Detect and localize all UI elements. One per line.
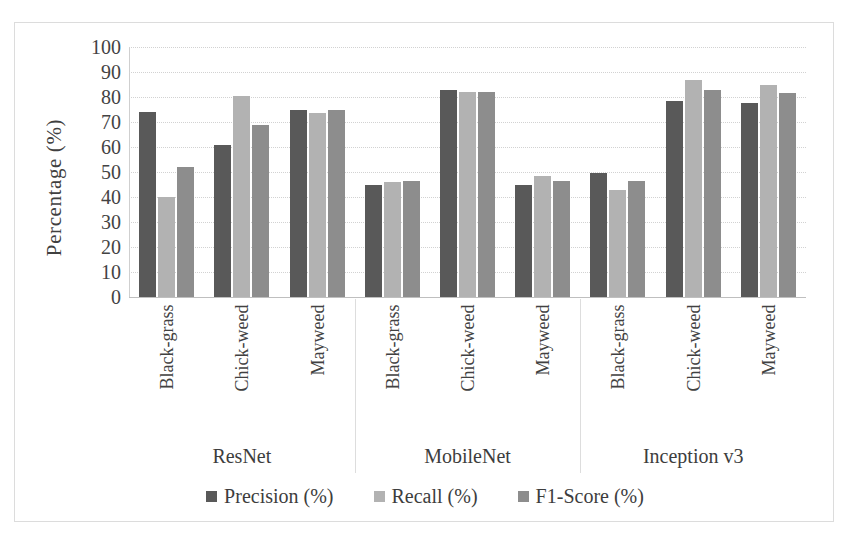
y-axis-title: Percentage (%) [42, 73, 67, 303]
category-axis-label: Mayweed [758, 305, 779, 431]
category-axis-label: Mayweed [533, 305, 554, 431]
bar[interactable] [741, 103, 758, 297]
category-axis-label: Mayweed [307, 305, 328, 431]
bar[interactable] [515, 185, 532, 298]
bar-cluster [515, 47, 570, 297]
bar[interactable] [233, 96, 250, 297]
legend-item[interactable]: F1-Score (%) [518, 485, 644, 508]
bar[interactable] [478, 92, 495, 297]
bar[interactable] [214, 145, 231, 298]
bar[interactable] [609, 190, 626, 298]
bar[interactable] [760, 85, 777, 298]
group-axis-label: MobileNet [355, 441, 581, 475]
bar[interactable] [459, 92, 476, 297]
legend-swatch-icon [206, 491, 217, 502]
category-axis-label: Chick-weed [232, 305, 253, 431]
y-axis-tick-label: 50 [77, 162, 121, 182]
bar[interactable] [590, 173, 607, 297]
y-axis-tick-label: 30 [77, 212, 121, 232]
bar-group-mobilenet [355, 47, 581, 297]
bar[interactable] [177, 167, 194, 297]
bar[interactable] [309, 113, 326, 297]
legend-item[interactable]: Precision (%) [206, 485, 333, 508]
bar-cluster [741, 47, 796, 297]
group-axis-label: ResNet [129, 441, 355, 475]
bar[interactable] [685, 80, 702, 298]
bar[interactable] [666, 101, 683, 297]
y-axis-tick-label: 10 [77, 262, 121, 282]
category-label-holder: Mayweed [740, 299, 797, 439]
category-label-holder: Black-grass [589, 299, 646, 439]
bar[interactable] [628, 181, 645, 297]
bar[interactable] [440, 90, 457, 298]
bar[interactable] [158, 197, 175, 297]
legend-swatch-icon [374, 491, 385, 502]
group-separator [355, 299, 356, 441]
y-axis-tick-label: 70 [77, 112, 121, 132]
bar-cluster [590, 47, 645, 297]
category-block: Black-grassChick-weedMayweed [580, 299, 806, 439]
bar[interactable] [779, 93, 796, 297]
bar-group-inception-v3 [580, 47, 806, 297]
legend-swatch-icon [518, 491, 529, 502]
bars-layer [129, 47, 806, 297]
bar[interactable] [704, 90, 721, 298]
bar-group-resnet [129, 47, 355, 297]
category-label-holder: Mayweed [289, 299, 346, 439]
bar[interactable] [290, 110, 307, 298]
category-label-holder: Chick-weed [213, 299, 270, 439]
legend-label: Precision (%) [224, 485, 333, 508]
category-label-holder: Chick-weed [665, 299, 722, 439]
plot-area [129, 47, 806, 297]
category-label-holder: Black-grass [364, 299, 421, 439]
category-block: Black-grassChick-weedMayweed [129, 299, 355, 439]
chart-frame: Percentage (%) 1009080706050403020100 Bl… [14, 22, 834, 522]
category-axis-label: Black-grass [157, 305, 178, 431]
legend-item[interactable]: Recall (%) [374, 485, 478, 508]
bar-cluster [365, 47, 420, 297]
y-axis-tick-label: 90 [77, 62, 121, 82]
group-separator [580, 439, 581, 473]
y-axis-tick-label: 40 [77, 187, 121, 207]
bar[interactable] [139, 112, 156, 297]
y-axis-tick-label: 0 [77, 287, 121, 307]
bar[interactable] [534, 176, 551, 297]
bar[interactable] [403, 181, 420, 297]
category-label-holder: Mayweed [514, 299, 571, 439]
bar-cluster [440, 47, 495, 297]
category-axis-label: Chick-weed [683, 305, 704, 431]
y-axis-tick-label: 100 [77, 37, 121, 57]
chart-legend: Precision (%)Recall (%)F1-Score (%) [15, 485, 835, 508]
bar[interactable] [328, 110, 345, 298]
category-axis-label: Black-grass [382, 305, 403, 431]
chart-plot-wrapper: Percentage (%) 1009080706050403020100 Bl… [15, 23, 835, 523]
category-label-holder: Black-grass [138, 299, 195, 439]
bar[interactable] [553, 181, 570, 297]
bar[interactable] [252, 125, 269, 298]
group-separator [580, 299, 581, 441]
legend-label: Recall (%) [392, 485, 478, 508]
group-separator [355, 439, 356, 473]
y-axis-tick-label: 20 [77, 237, 121, 257]
bar-cluster [139, 47, 194, 297]
bar-cluster [666, 47, 721, 297]
y-axis-tick-labels: 1009080706050403020100 [77, 23, 121, 523]
group-axis-label: Inception v3 [580, 441, 806, 475]
category-axis-label: Chick-weed [458, 305, 479, 431]
category-axis-label: Black-grass [608, 305, 629, 431]
y-axis-tick-label: 60 [77, 137, 121, 157]
category-label-holder: Chick-weed [439, 299, 496, 439]
bar[interactable] [384, 182, 401, 297]
y-axis-tick-label: 80 [77, 87, 121, 107]
x-axis-line [129, 297, 806, 298]
group-axis-labels: ResNetMobileNetInception v3 [129, 441, 806, 475]
category-axis-labels: Black-grassChick-weedMayweedBlack-grassC… [129, 299, 806, 439]
category-block: Black-grassChick-weedMayweed [355, 299, 581, 439]
legend-label: F1-Score (%) [536, 485, 644, 508]
bar[interactable] [365, 185, 382, 298]
bar-cluster [290, 47, 345, 297]
bar-cluster [214, 47, 269, 297]
